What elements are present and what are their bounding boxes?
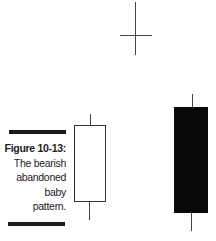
caption-line: baby	[4, 185, 66, 200]
doji-candle	[120, 2, 153, 55]
figure-caption: Figure 10-13: The bearish abandoned baby…	[4, 141, 66, 214]
caption-bottom-rule	[8, 222, 65, 226]
doji-open-close-line	[120, 35, 152, 36]
white-candle-body	[74, 125, 106, 202]
caption-line: abandoned	[4, 170, 66, 185]
white-candle	[74, 114, 106, 220]
caption-line: pattern.	[4, 199, 66, 214]
caption-top-rule	[9, 130, 66, 134]
figure-number: Figure 10-13:	[4, 141, 66, 156]
caption-line: The bearish	[4, 156, 66, 171]
black-candle	[174, 94, 209, 231]
white-candle-lower-wick	[89, 202, 90, 220]
black-candle-lower-wick	[191, 213, 192, 231]
black-candle-upper-wick	[192, 94, 193, 107]
black-candle-body	[174, 107, 208, 213]
white-candle-upper-wick	[90, 114, 91, 125]
doji-wick	[135, 2, 136, 55]
